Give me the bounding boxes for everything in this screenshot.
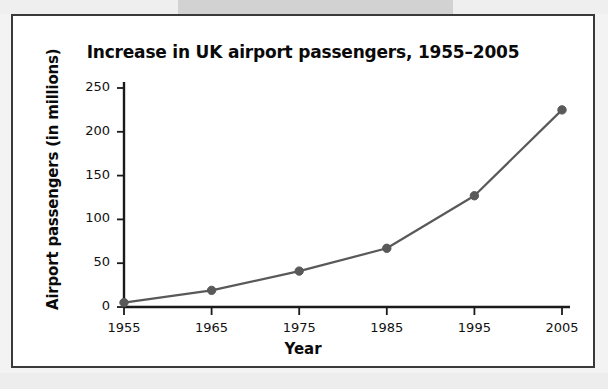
- x-tick-label: 2005: [532, 320, 592, 335]
- y-tick-label: 100: [68, 210, 110, 225]
- scan-band-bottom: [0, 373, 608, 389]
- scan-band-left: [0, 0, 178, 14]
- scan-band-right: [453, 0, 608, 14]
- x-tick-label: 1985: [357, 320, 417, 335]
- y-tick-label: 200: [68, 123, 110, 138]
- axis-lines: [124, 82, 570, 307]
- y-tick-label: 50: [68, 254, 110, 269]
- data-series-line: [124, 110, 562, 303]
- plot-area: 050100150200250 195519651975198519952005: [13, 16, 593, 366]
- y-tick-label: 250: [68, 79, 110, 94]
- x-tick-label: 1995: [444, 320, 504, 335]
- chart-figure-frame: Increase in UK airport passengers, 1955–…: [11, 14, 595, 368]
- axis-ticks: [117, 88, 562, 315]
- data-point-markers: [120, 106, 566, 307]
- x-tick-label: 1955: [94, 320, 154, 335]
- plot-svg: [13, 16, 593, 366]
- y-tick-label: 0: [68, 298, 110, 313]
- y-tick-label: 150: [68, 167, 110, 182]
- x-tick-label: 1965: [182, 320, 242, 335]
- x-tick-label: 1975: [269, 320, 329, 335]
